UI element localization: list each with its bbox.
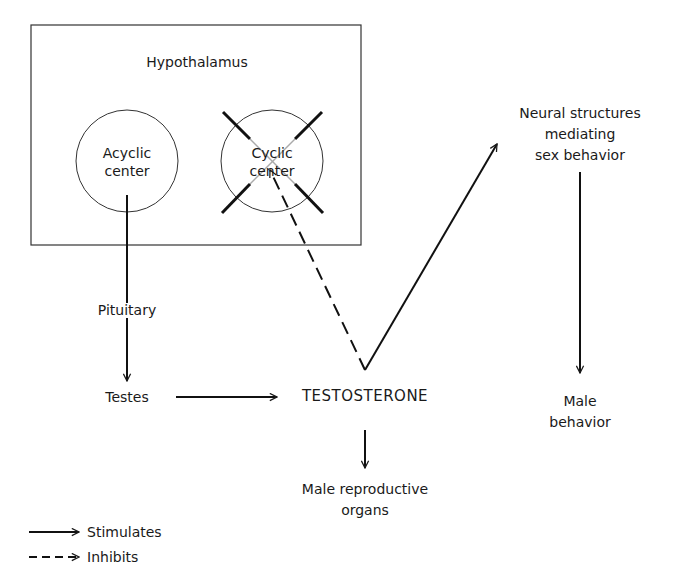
neural-structures-label: Neural structures mediating sex behavior: [505, 103, 655, 166]
arrow-testosterone-neural: [365, 144, 497, 370]
hypothalamus-label: Hypothalamus: [132, 53, 262, 71]
male-organs-label: Male reproductive organs: [280, 479, 450, 521]
cyclic-center-label: Cyclic center: [222, 144, 322, 180]
testes-label: Testes: [77, 388, 177, 406]
legend-stimulates-label: Stimulates: [87, 523, 162, 541]
legend-inhibits-label: Inhibits: [87, 548, 138, 566]
arrow-inhibit-cyclic: [270, 170, 365, 370]
testosterone-label: TESTOSTERONE: [285, 387, 445, 405]
male-behavior-label: Male behavior: [530, 391, 630, 433]
pituitary-label: Pituitary: [77, 301, 177, 319]
acyclic-center-label: Acyclic center: [77, 144, 177, 180]
